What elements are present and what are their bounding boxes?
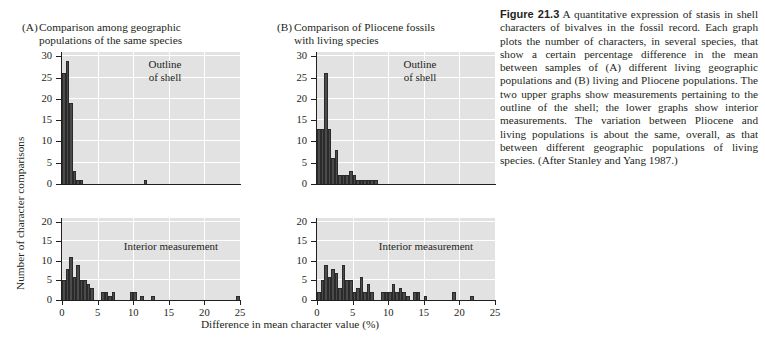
x-axis-tick-label: 10 [376,307,400,318]
plot-label-outline-of-shell: Outline of shell [120,58,210,84]
gridline-vertical [204,218,205,300]
y-axis-tick-label: 10 [28,135,52,146]
x-axis-tick [424,301,425,305]
x-axis-tick [459,301,460,305]
gridline-vertical [98,52,99,184]
histogram-bar [90,288,94,300]
x-axis-tick [240,301,241,305]
y-axis-tick-label: 20 [283,216,307,227]
x-axis-tick-label: 0 [50,307,74,318]
gridline-horizontal [317,140,495,141]
y-axis-tick [56,141,61,142]
gridline-vertical [240,52,241,184]
x-axis-tick-label: 20 [447,307,471,318]
x-axis-line [61,184,241,185]
plot-label-interior-measurement: Interior measurement [102,240,240,253]
y-axis-tick-label: 0 [28,178,52,189]
y-axis-tick [311,78,316,79]
histogram-bar [417,292,421,300]
gridline-horizontal [317,119,495,120]
chart-a-interior-measurement [62,218,240,300]
gridline-horizontal [62,119,240,120]
histogram-bar [112,292,116,300]
x-axis-line [61,300,241,301]
y-axis-line [316,218,317,301]
y-axis-tick-label: 30 [283,50,307,61]
panel-b-text: Comparison of Pliocene fossils with livi… [294,21,435,47]
y-axis-tick-label: 5 [283,157,307,168]
histogram-bar [370,292,374,300]
y-axis-tick-label: 20 [28,93,52,104]
gridline-horizontal [62,98,240,99]
x-axis-tick-label: 5 [86,307,110,318]
y-axis-tick-label: 20 [283,93,307,104]
gridline-vertical [98,218,99,300]
figure-21-3: (A)Comparison among geographic populatio… [0,0,765,338]
y-axis-tick [56,78,61,79]
y-axis-tick-label: 15 [28,114,52,125]
y-axis-tick [311,241,316,242]
x-axis-tick-label: 15 [412,307,436,318]
y-axis-tick-label: 0 [28,294,52,305]
figure-caption: Figure 21.3 A quantitative expression of… [500,8,758,168]
y-axis-tick-label: 5 [283,274,307,285]
x-axis-tick [169,301,170,305]
y-axis-tick-label: 15 [28,235,52,246]
figure-number: Figure 21.3 [500,8,559,20]
gridline-vertical [240,218,241,300]
gridline-horizontal [62,140,240,141]
gridline-horizontal [62,279,240,280]
y-axis-tick [56,261,61,262]
gridline-horizontal [62,221,240,222]
y-axis-tick-label: 0 [283,178,307,189]
histogram-bar [133,292,137,300]
gridline-vertical [459,218,460,300]
y-axis-tick [56,280,61,281]
y-axis-tick [311,56,316,57]
gridline-horizontal [62,260,240,261]
x-axis-tick [133,301,134,305]
chart-b-interior-measurement [317,218,495,300]
x-axis-tick [495,301,496,305]
y-axis-tick [56,56,61,57]
y-axis-tick-label: 5 [28,274,52,285]
panel-b-title: (B)Comparison of Pliocene fossils with l… [277,8,492,48]
panel-a-letter: (A) [22,21,39,34]
y-axis-tick [56,222,61,223]
gridline-vertical [424,218,425,300]
x-axis-tick-label: 15 [157,307,181,318]
y-axis-label: Number of character comparisons [14,137,26,290]
y-axis-tick [311,120,316,121]
x-axis-tick [353,301,354,305]
x-axis-line [316,184,496,185]
x-axis-tick-label: 10 [121,307,145,318]
y-axis-tick [311,300,316,301]
x-axis-tick-label: 0 [305,307,329,318]
gridline-horizontal [317,55,495,56]
y-axis-tick-label: 5 [28,157,52,168]
gridline-horizontal [317,260,495,261]
gridline-vertical [388,218,389,300]
y-axis-tick [56,99,61,100]
y-axis-tick [311,163,316,164]
gridline-horizontal [62,55,240,56]
y-axis-tick-label: 20 [28,216,52,227]
panel-a-title: (A)Comparison among geographic populatio… [22,8,242,48]
gridline-horizontal [317,98,495,99]
x-axis-tick [317,301,318,305]
x-axis-tick-label: 20 [192,307,216,318]
x-axis-tick [62,301,63,305]
gridline-horizontal [317,162,495,163]
y-axis-tick [311,141,316,142]
figure-caption-text: A quantitative expression of stasis in s… [500,8,758,166]
panel-a-text: Comparison among geographic populations … [39,21,182,47]
y-axis-tick [311,184,316,185]
x-axis-tick [388,301,389,305]
gridline-vertical [353,52,354,184]
y-axis-tick [56,300,61,301]
y-axis-tick-label: 15 [283,235,307,246]
x-axis-label: Difference in mean character value (%) [130,318,450,330]
y-axis-tick [56,163,61,164]
y-axis-tick-label: 15 [283,114,307,125]
gridline-vertical [133,218,134,300]
